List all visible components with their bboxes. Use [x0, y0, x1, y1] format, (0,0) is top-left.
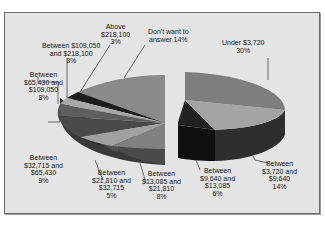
slice-side-9640: [178, 125, 215, 161]
label-9640-13085: Between $9,640 and $13,085 6%: [200, 167, 235, 197]
label-above-218100: Above $218,100 3%: [101, 23, 130, 46]
label-21810-32715: Between $21,810 and $32,715 5%: [92, 169, 131, 199]
label-32715-65430: Between $32,715 and $65,430 9%: [24, 154, 63, 184]
label-13085-21810: Between $13,085 and $21,810 8%: [142, 170, 181, 200]
label-3720-9640: Between $3,720 and $9,640 14%: [262, 160, 297, 190]
label-109050-218100: Between $109,050 and $218,100 3%: [42, 42, 100, 65]
label-dont-want: Don't want to answer 14%: [148, 28, 189, 43]
label-under-3720: Under $3,720 30%: [222, 39, 264, 54]
label-65430-109050: Between $65,430 and $109,050 8%: [24, 71, 63, 101]
